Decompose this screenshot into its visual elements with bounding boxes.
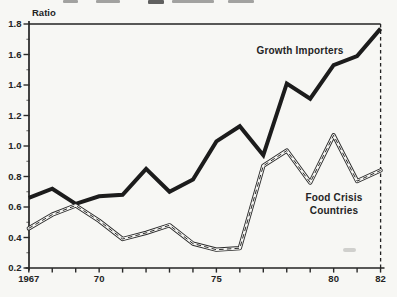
series-label-food-crisis-line1: Food Crisis (305, 192, 362, 203)
series-label-growth-importers: Growth Importers (256, 45, 343, 56)
x-tick-label: 1967 (18, 273, 39, 284)
cropped-text-fragment (96, 0, 120, 3)
y-tick-label: 0.4 (8, 232, 22, 243)
y-tick-label: 1.2 (8, 110, 21, 121)
y-tick-label: 0.2 (8, 262, 21, 273)
y-tick-label: 0.6 (8, 201, 21, 212)
x-tick-label: 82 (375, 273, 386, 284)
y-axis-labels: 0.20.40.60.81.01.21.41.61.8 (8, 18, 22, 273)
cropped-text-fragment (172, 0, 214, 3)
x-tick-label: 70 (94, 273, 105, 284)
cropped-text-fragment (148, 0, 164, 4)
y-axis-title: Ratio (32, 7, 56, 18)
x-tick-label: 75 (211, 273, 222, 284)
ratio-line-chart: Ratio 0.20.40.60.81.01.21.41.61.8 196770… (0, 0, 397, 297)
y-tick-label: 0.8 (8, 171, 21, 182)
scan-smudge (343, 248, 356, 252)
cropped-text-fragment (228, 0, 254, 3)
scanned-line-chart-page: Ratio 0.20.40.60.81.01.21.41.61.8 196770… (0, 0, 397, 297)
cropped-text-fragment (63, 0, 78, 3)
x-axis-labels: 196770758082 (18, 273, 386, 284)
series-label-food-crisis-line2: Countries (310, 205, 359, 216)
y-tick-label: 1.8 (8, 18, 21, 29)
x-tick-label: 80 (328, 273, 339, 284)
y-tick-label: 1.6 (8, 49, 21, 60)
y-tick-label: 1.0 (8, 140, 21, 151)
y-tick-label: 1.4 (8, 79, 22, 90)
